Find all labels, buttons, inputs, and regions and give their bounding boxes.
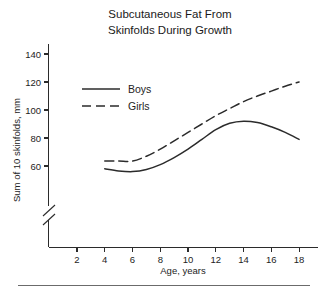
- x-tick-group: 24681012141618: [74, 248, 304, 266]
- legend-label-boys: Boys: [128, 83, 151, 95]
- series-line-boys: [105, 121, 299, 171]
- x-axis-title: Age, years: [160, 265, 206, 276]
- y-tick-label: 100: [25, 105, 41, 116]
- x-tick-label: 6: [130, 254, 135, 265]
- x-tick-label: 4: [102, 254, 107, 265]
- y-tick-label: 60: [30, 161, 41, 172]
- y-tick-label: 80: [30, 133, 41, 144]
- y-axis-title: Sum of 10 skinfolds, mm: [11, 98, 22, 202]
- chart-title: Subcutaneous Fat From Skinfolds During G…: [108, 8, 232, 36]
- x-tick-label: 12: [211, 254, 222, 265]
- y-tick-group: 6080100120140: [25, 49, 48, 172]
- x-tick-label: 18: [294, 254, 305, 265]
- x-tick-label: 2: [74, 254, 79, 265]
- chart-title-line-1: Subcutaneous Fat From: [108, 8, 231, 20]
- y-tick-label: 140: [25, 49, 41, 60]
- series-group: [105, 82, 299, 172]
- x-tick-label: 14: [238, 254, 249, 265]
- x-axis: 24681012141618 Age, years: [49, 248, 319, 277]
- line-chart: Subcutaneous Fat From Skinfolds During G…: [0, 0, 327, 294]
- y-tick-label: 120: [25, 77, 41, 88]
- chart-legend: BoysGirls: [82, 83, 151, 112]
- x-tick-label: 16: [266, 254, 277, 265]
- x-tick-label: 10: [183, 254, 194, 265]
- y-axis: 6080100120140 Sum of 10 skinfolds, mm: [11, 44, 55, 247]
- figure-root: Subcutaneous Fat From Skinfolds During G…: [0, 0, 327, 294]
- legend-label-girls: Girls: [128, 100, 150, 112]
- x-tick-label: 8: [158, 254, 163, 265]
- chart-title-line-2: Skinfolds During Growth: [108, 24, 232, 36]
